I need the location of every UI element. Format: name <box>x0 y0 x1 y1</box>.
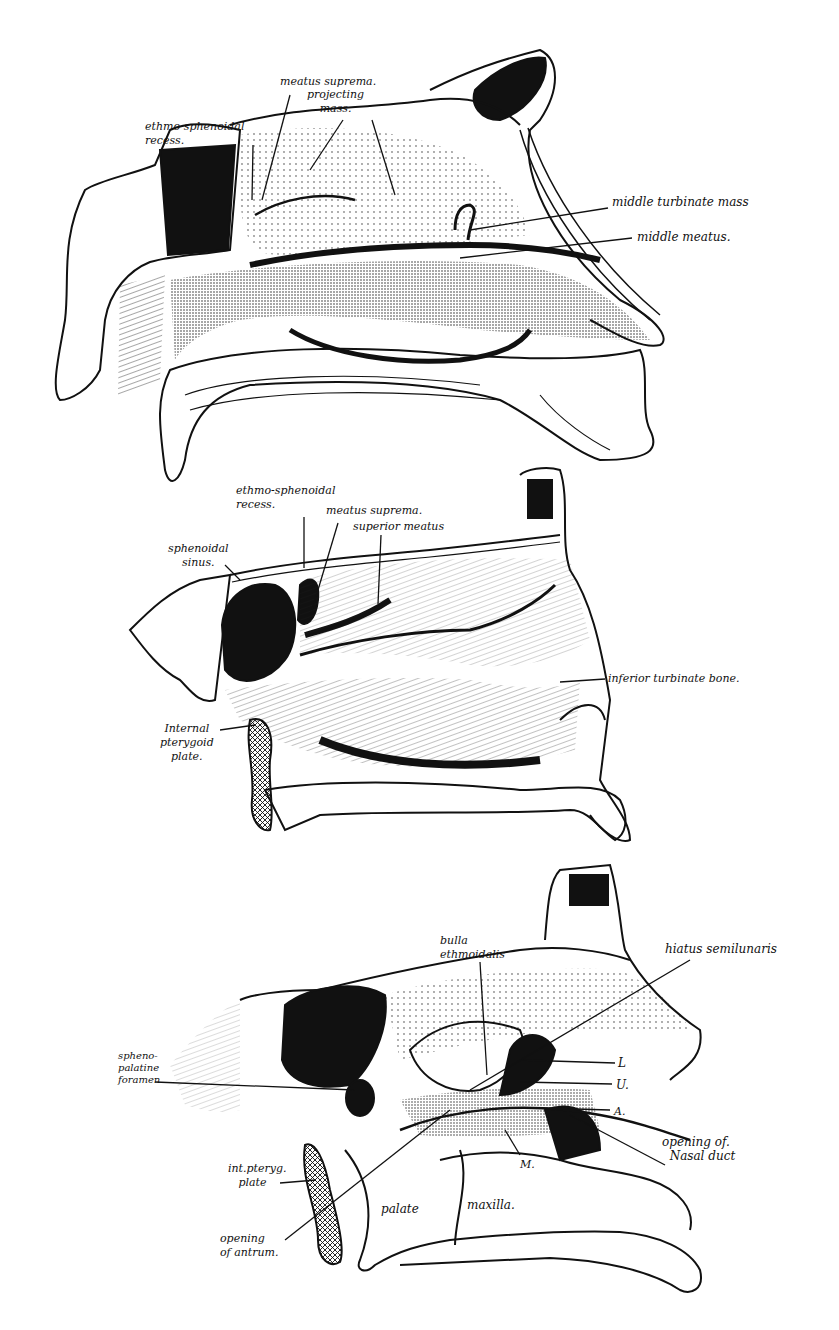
label-spheno-palatine-foramen: spheno- palatine foramen <box>118 1050 160 1086</box>
label-maxilla: maxilla. <box>467 1198 515 1212</box>
label-inferior-turbinate-bone: inferior turbinate bone. <box>608 672 739 686</box>
label-hiatus-semilunaris: hiatus semilunaris <box>665 942 777 956</box>
label-meatus-suprema-top: meatus suprema. <box>280 75 376 89</box>
label-internal-pterygoid-plate: Internal pterygoid plate. <box>160 722 214 764</box>
label-meatus-suprema-middle: meatus suprema. <box>326 504 422 518</box>
anatomical-diagram: ethmo-sphenoidal recess. meatus suprema.… <box>0 0 839 1330</box>
label-ethmo-sphenoidal-recess-middle: ethmo-sphenoidal recess. <box>236 484 335 512</box>
label-int-pteryg-plate: int.pteryg. plate <box>228 1162 287 1190</box>
label-palate: palate <box>381 1202 419 1216</box>
label-A: A. <box>614 1105 625 1119</box>
label-ethmo-sphenoidal-recess-top: ethmo-sphenoidal recess. <box>145 120 244 148</box>
label-middle-meatus: middle meatus. <box>637 230 731 244</box>
label-opening-of-antrum: opening of antrum. <box>220 1232 279 1260</box>
label-sphenoidal-sinus: sphenoidal sinus. <box>168 542 229 570</box>
label-superior-meatus: superior meatus <box>353 520 444 534</box>
label-projecting-mass: projecting mass. <box>307 88 364 116</box>
label-L: L <box>618 1056 626 1070</box>
label-M: M. <box>520 1158 535 1172</box>
label-middle-turbinate-mass: middle turbinate mass <box>612 195 749 209</box>
label-opening-of-nasal-duct: opening of. Nasal duct <box>662 1135 735 1163</box>
label-bulla-ethmoidalis: bulla ethmoidalis <box>440 934 505 962</box>
label-U: U. <box>616 1078 629 1092</box>
